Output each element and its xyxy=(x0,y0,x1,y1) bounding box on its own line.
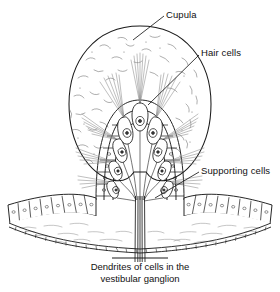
caption-line-2: vestibular ganglion xyxy=(0,273,280,285)
figure-caption: Dendrites of cells in the vestibular gan… xyxy=(0,261,280,284)
caption-line-1: Dendrites of cells in the xyxy=(0,261,280,273)
label-hair-cells: Hair cells xyxy=(201,47,241,58)
label-cupula: Cupula xyxy=(166,9,197,20)
label-supporting-cells: Supporting cells xyxy=(201,165,270,176)
figure-panel: Cupula Hair cells Supporting cells Dendr… xyxy=(0,0,280,292)
crista-ampullaris-illustration xyxy=(0,0,280,292)
